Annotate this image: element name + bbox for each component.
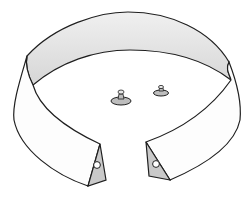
collar-stud-right [154, 85, 169, 96]
collar-right-face [146, 62, 240, 180]
right-buttonhole-icon [153, 161, 160, 168]
collar-inner-band [26, 12, 231, 85]
collar-left-face [14, 56, 100, 186]
left-buttonhole-icon [94, 162, 101, 169]
collar-illustration [0, 0, 247, 198]
collar-stud-left [111, 90, 131, 105]
